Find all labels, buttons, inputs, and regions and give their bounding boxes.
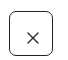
close-icon (27, 32, 39, 44)
close-button[interactable] (9, 11, 53, 56)
